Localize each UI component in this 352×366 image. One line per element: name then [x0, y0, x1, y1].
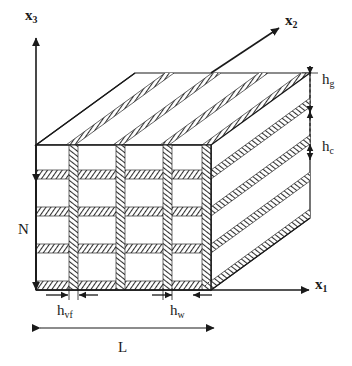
solid-body	[36, 73, 310, 290]
dimension-label-N: N	[18, 222, 29, 239]
axis-label-x3: x3	[25, 8, 37, 25]
dimension-label-L: L	[118, 340, 127, 357]
axis-x2-arrow	[211, 28, 279, 73]
dimension-label-hw: hw	[170, 303, 185, 320]
axis-label-x2: x2	[285, 13, 297, 30]
axis-label-x1: x1	[315, 277, 327, 294]
dimension-label-hc: hc	[322, 139, 334, 156]
dimension-label-hvf: hvf	[57, 303, 73, 320]
dimension-label-hg: hg	[322, 72, 334, 89]
